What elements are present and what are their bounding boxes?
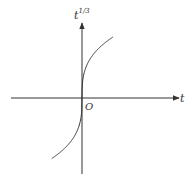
x-axis-label: t — [180, 93, 184, 104]
cube-root-plot — [0, 0, 194, 182]
y-axis-label-exponent: 1/3 — [78, 7, 89, 15]
origin-label: O — [85, 102, 93, 112]
y-axis-label: t1/3 — [74, 9, 90, 21]
